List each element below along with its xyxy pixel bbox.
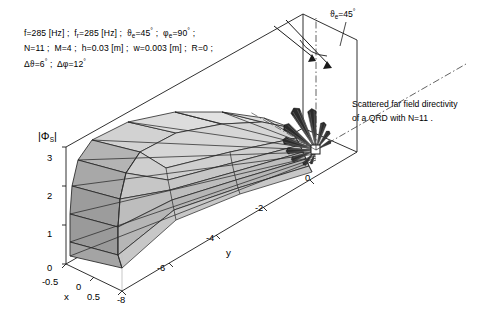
- surface-plot-graphic: [0, 0, 501, 314]
- x-axis-ticks: [62, 264, 122, 295]
- angle-arc: [300, 40, 327, 56]
- directivity-surface: [70, 112, 316, 268]
- figure-canvas: f=285 [Hz] ; fr=285 [Hz] ; ϑe=45° ; φe=9…: [0, 0, 501, 314]
- z-axis-ticks: [62, 147, 66, 264]
